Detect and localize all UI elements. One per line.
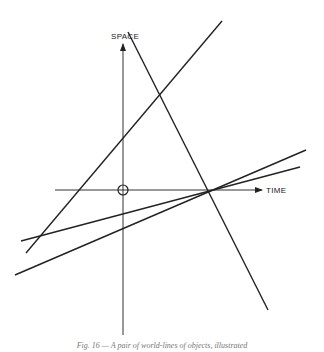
space-time-diagram — [0, 0, 324, 352]
shallow-line-upper — [21, 167, 300, 241]
space-axis-label: SPACE — [111, 32, 139, 41]
rising-steep-line — [26, 21, 222, 253]
figure-caption: Fig. 16 — A pair of world-lines of objec… — [0, 341, 324, 352]
shallow-line-lower — [15, 150, 306, 275]
falling-steep-line — [128, 32, 268, 310]
time-axis-label: TIME — [266, 186, 286, 195]
